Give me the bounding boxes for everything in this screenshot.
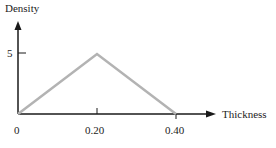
- x-axis-arrow-icon: [206, 111, 216, 118]
- y-axis-label: Density: [5, 2, 40, 14]
- x-tick-label-0: 0: [14, 124, 20, 136]
- x-tick-label-0.20: 0.20: [85, 124, 105, 136]
- density-line: [18, 54, 176, 114]
- y-tick-label-5: 5: [7, 47, 13, 59]
- density-chart: 5 Density Thickness 0 0.20 0.40: [0, 0, 276, 148]
- x-axis-label: Thickness: [222, 108, 267, 120]
- x-tick-label-0.40: 0.40: [165, 124, 185, 136]
- y-axis-arrow-icon: [15, 21, 22, 30]
